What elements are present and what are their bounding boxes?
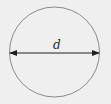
- diagram-canvas: d: [0, 0, 111, 104]
- circle-shape: [10, 7, 100, 97]
- circle-diameter-diagram: d: [0, 0, 111, 104]
- diameter-label: d: [53, 38, 61, 52]
